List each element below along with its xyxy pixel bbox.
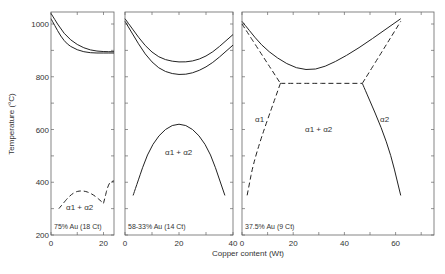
curve-miscibility-gap xyxy=(133,124,225,195)
curve-alpha2-solvus xyxy=(362,83,400,195)
svg-text:20: 20 xyxy=(289,239,298,248)
curve-liquidus xyxy=(125,19,233,62)
curve-solidus xyxy=(51,19,114,53)
x-tick-labels: 020020400204060 xyxy=(49,239,401,248)
y-tick-labels: 2004006008001000 xyxy=(31,20,49,240)
tick-marks xyxy=(51,12,434,235)
svg-text:0: 0 xyxy=(123,239,128,248)
curve-ordering xyxy=(104,181,115,203)
curve-solidus xyxy=(125,21,233,74)
svg-text:800: 800 xyxy=(36,73,50,82)
curve-alpha1-solvus xyxy=(247,83,280,195)
panel-3-frame xyxy=(242,12,434,235)
curve-liquidus xyxy=(242,19,401,70)
svg-text:1000: 1000 xyxy=(31,20,49,29)
x-axis-label: Copper content (Wt) xyxy=(212,249,284,258)
svg-text:40: 40 xyxy=(340,239,349,248)
panel-2-frame xyxy=(125,12,233,235)
y-axis-label: Temperature (°C) xyxy=(7,93,16,155)
panel-1-frame xyxy=(51,12,114,235)
svg-text:0: 0 xyxy=(240,239,245,248)
panel-2-label: 58-33% Au (14 Ct) xyxy=(128,223,186,231)
region-label-p2: α1 + α2 xyxy=(165,148,193,157)
phase-diagram: 2004006008001000 Temperature (°C) 020020… xyxy=(0,0,445,274)
curve-solidus xyxy=(242,24,280,83)
svg-text:400: 400 xyxy=(36,178,50,187)
svg-text:40: 40 xyxy=(229,239,238,248)
curve-liquidus xyxy=(51,13,114,51)
svg-text:0: 0 xyxy=(49,239,54,248)
region-label-alpha2: α2 xyxy=(380,115,390,124)
panel-1-label: 75% Au (18 Ct) xyxy=(54,223,101,231)
phase-curves xyxy=(51,13,401,208)
region-label-p1: α1 + α2 xyxy=(66,203,94,212)
region-label-alpha1: α1 xyxy=(255,115,265,124)
svg-text:60: 60 xyxy=(391,239,400,248)
svg-text:20: 20 xyxy=(99,239,108,248)
svg-text:20: 20 xyxy=(175,239,184,248)
svg-text:200: 200 xyxy=(36,231,50,240)
curve-alpha2-solidus xyxy=(362,21,400,83)
panel-3-label: 37.5% Au (9 Ct) xyxy=(245,223,294,231)
region-label-alpha1-alpha2: α1 + α2 xyxy=(305,125,333,134)
svg-text:600: 600 xyxy=(36,126,50,135)
